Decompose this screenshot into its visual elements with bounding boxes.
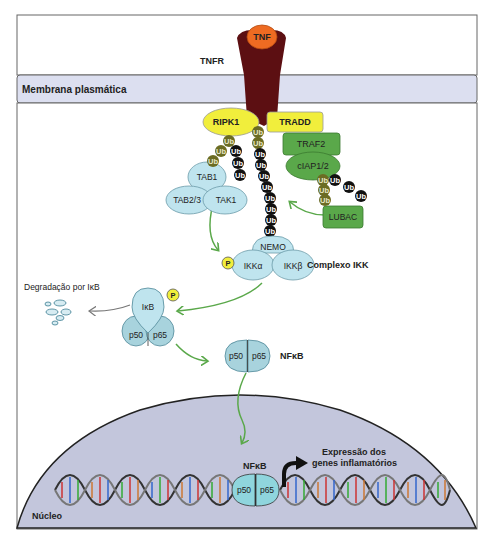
ikk-complex-label: Complexo IKK [307,260,369,270]
svg-text:Ub: Ub [208,157,218,166]
svg-text:IκB: IκB [142,302,155,312]
svg-text:p65: p65 [153,330,167,340]
svg-text:RIPK1: RIPK1 [213,117,240,127]
svg-text:p50: p50 [237,485,251,495]
svg-text:P: P [225,259,230,268]
svg-text:P: P [170,291,175,300]
svg-text:IKKα: IKKα [244,261,263,271]
svg-text:Ub: Ub [265,227,275,236]
svg-text:TRAF2: TRAF2 [297,139,326,149]
svg-text:Ub: Ub [255,150,265,159]
svg-text:Ub: Ub [233,159,243,168]
svg-text:Ub: Ub [356,192,366,201]
svg-text:Ub: Ub [224,137,234,146]
expression-label-1: Expressão dos [322,447,386,457]
svg-text:Ub: Ub [266,216,276,225]
lubac-protein: LUBAC [323,206,363,228]
svg-text:Ub: Ub [320,196,330,205]
svg-text:Ub: Ub [266,205,276,214]
svg-text:cIAP1/2: cIAP1/2 [297,161,329,171]
svg-text:Ub: Ub [262,183,272,192]
expression-label-2: genes inflamatórios [312,458,397,468]
tnf-ligand: TNF [247,25,277,49]
svg-text:p50: p50 [229,351,243,361]
nfkb-nucleus: p50 p65 [232,474,279,506]
nfkb-nucleus-label: NFκB [243,461,267,471]
tradd-protein: TRADD [267,112,323,132]
svg-text:Ub: Ub [253,139,263,148]
degradation-label: Degradação por IκB [24,282,100,292]
svg-text:NEMO: NEMO [260,242,286,252]
svg-text:p50: p50 [129,330,143,340]
svg-text:TAK1: TAK1 [216,195,237,205]
svg-text:p65: p65 [260,485,274,495]
nfkb-label: NFκB [280,351,304,361]
svg-text:Ub: Ub [216,147,226,156]
membrane-label: Membrana plasmática [22,84,127,95]
svg-text:Ub: Ub [265,194,275,203]
nucleus-label: Núcleo [32,511,63,521]
nfkb-cytoplasm: p50 p65 [225,340,270,372]
svg-text:p65: p65 [252,351,266,361]
svg-text:Ub: Ub [256,161,266,170]
svg-text:Ub: Ub [318,176,328,185]
svg-text:Ub: Ub [319,186,329,195]
svg-text:TAB2/3: TAB2/3 [173,195,201,205]
svg-text:Ub: Ub [344,183,354,192]
ripk1-protein: RIPK1 [203,108,259,136]
svg-text:LUBAC: LUBAC [329,212,357,222]
svg-text:Ub: Ub [231,147,241,156]
svg-text:Ub: Ub [330,176,340,185]
svg-text:Ub: Ub [253,128,263,137]
svg-text:TRADD: TRADD [279,117,311,127]
svg-text:IKKβ: IKKβ [284,261,303,271]
svg-text:Ub: Ub [235,171,245,180]
tnf-nfkb-pathway-diagram: Membrana plasmática Núcleo TNFR [0,0,491,542]
tnfr-label: TNFR [200,56,224,66]
svg-text:Ub: Ub [259,172,269,181]
svg-text:TNF: TNF [253,32,271,42]
svg-text:TAB1: TAB1 [197,172,218,182]
